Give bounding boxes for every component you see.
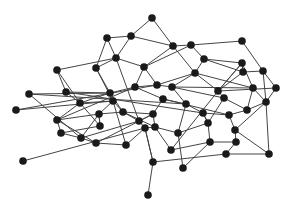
- graph-node: [153, 81, 161, 89]
- graph-edge: [135, 87, 163, 99]
- graph-node: [92, 139, 100, 147]
- graph-node: [191, 69, 199, 77]
- graph-node: [182, 100, 190, 108]
- graph-edge: [224, 98, 247, 110]
- graph-node: [238, 59, 246, 67]
- graph-node: [127, 32, 135, 40]
- graph-edge: [131, 18, 152, 36]
- graph-node: [77, 134, 85, 142]
- graph-node: [144, 191, 152, 199]
- graph-node: [119, 108, 127, 116]
- graph-node: [231, 126, 239, 134]
- graph-edge: [242, 41, 263, 71]
- graph-node: [187, 41, 195, 49]
- graph-node: [206, 138, 214, 146]
- graph-edge: [144, 46, 173, 67]
- graph-node: [225, 111, 233, 119]
- graph-node: [169, 42, 177, 50]
- graph-node: [238, 37, 246, 45]
- graph-node: [95, 110, 103, 118]
- graph-node: [239, 68, 247, 76]
- graph-node: [199, 109, 207, 117]
- graph-node: [57, 129, 65, 137]
- graph-node: [232, 138, 240, 146]
- graph-node: [12, 106, 20, 114]
- graph-node: [259, 67, 267, 75]
- graph-edge: [157, 73, 195, 85]
- graph-edge: [29, 94, 81, 138]
- graph-node: [109, 97, 117, 105]
- graph-node: [262, 98, 270, 106]
- graph-edge: [148, 162, 153, 195]
- graph-edge: [235, 130, 269, 154]
- graph-node: [96, 122, 104, 130]
- graph-node: [220, 94, 228, 102]
- graph-edge: [145, 128, 153, 162]
- graph-node: [167, 146, 175, 154]
- graph-node: [174, 129, 182, 137]
- graph-edge: [96, 143, 126, 145]
- graph-node: [243, 106, 251, 114]
- graph-edge: [218, 88, 276, 91]
- graph-node: [249, 84, 257, 92]
- graph-node: [272, 84, 280, 92]
- graph-edge: [173, 46, 195, 73]
- graph-node: [151, 123, 159, 131]
- graph-edge: [263, 71, 266, 102]
- graph-node: [25, 90, 33, 98]
- graph-node: [106, 89, 114, 97]
- graph-edge: [178, 104, 186, 133]
- graph-edges: [16, 18, 276, 195]
- graph-node: [53, 116, 61, 124]
- graph-node: [135, 117, 143, 125]
- graph-node: [148, 14, 156, 22]
- graph-node: [92, 64, 100, 72]
- graph-node: [159, 95, 167, 103]
- graph-edge: [153, 154, 226, 162]
- graph-edge: [116, 36, 131, 58]
- graph-edge: [183, 142, 210, 168]
- graph-edge: [61, 126, 100, 133]
- graph-node: [149, 110, 157, 118]
- graph-node: [168, 83, 176, 91]
- graph-edge: [16, 101, 113, 110]
- graph-node: [122, 141, 130, 149]
- graph-node: [200, 55, 208, 63]
- graph-node: [103, 34, 111, 42]
- graph-node: [76, 99, 84, 107]
- graph-node: [149, 158, 157, 166]
- graph-edge: [191, 41, 242, 45]
- graph-edge: [57, 70, 80, 103]
- graph-edge: [144, 45, 191, 67]
- graph-node: [179, 164, 187, 172]
- graph-edge: [163, 99, 229, 115]
- graph-node: [131, 83, 139, 91]
- graph-node: [141, 124, 149, 132]
- graph-edge: [57, 58, 116, 70]
- graph-node: [214, 87, 222, 95]
- graph-node: [112, 54, 120, 62]
- graph-node: [222, 150, 230, 158]
- graph-node: [53, 66, 61, 74]
- graph-node: [19, 157, 27, 165]
- graph-node: [140, 63, 148, 71]
- graph-edge: [116, 58, 144, 67]
- network-graph: [0, 0, 293, 213]
- graph-edge: [266, 102, 269, 154]
- graph-node: [265, 150, 273, 158]
- graph-node: [204, 119, 212, 127]
- graph-edge: [172, 73, 195, 87]
- graph-node: [62, 88, 70, 96]
- graph-edge: [178, 123, 208, 133]
